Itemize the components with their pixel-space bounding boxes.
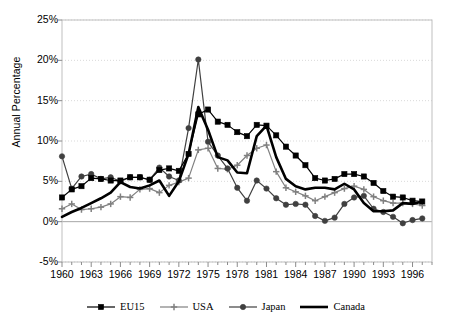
- legend-item-japan[interactable]: Japan: [228, 300, 286, 313]
- chart-legend: EU15USAJapanCanada: [0, 299, 451, 313]
- legend-label-canada: Canada: [333, 301, 365, 312]
- legend-label-eu15: EU15: [120, 301, 145, 312]
- legend-item-canada[interactable]: Canada: [299, 300, 365, 313]
- legend-swatch-canada-icon: [299, 301, 329, 313]
- x-axis-tick-labels: 1960196319661969197219751978198119841987…: [0, 0, 451, 330]
- legend-swatch-usa-icon: [159, 301, 189, 313]
- legend-label-japan: Japan: [262, 301, 286, 312]
- chart-container: Annual Percentage 25%20%15%10%5%0%-5% 19…: [0, 0, 451, 330]
- legend-item-usa[interactable]: USA: [159, 300, 214, 313]
- x-tick-1996: 1996: [393, 269, 433, 280]
- legend-swatch-eu15-icon: [86, 301, 116, 313]
- legend-label-usa: USA: [193, 301, 214, 312]
- legend-swatch-japan-icon: [228, 301, 258, 313]
- legend-item-eu15[interactable]: EU15: [86, 300, 145, 313]
